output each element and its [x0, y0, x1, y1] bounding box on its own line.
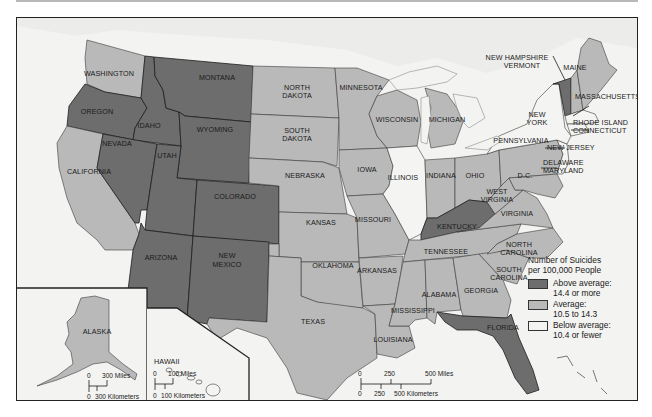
- label-idaho: IDAHO: [137, 121, 161, 130]
- state-wyoming[interactable]: [177, 112, 251, 183]
- svg-text:500 Kilometers: 500 Kilometers: [394, 390, 439, 397]
- label-arizona: ARIZONA: [145, 253, 178, 262]
- state-colorado[interactable]: [193, 180, 279, 244]
- label-minnesota: MINNESOTA: [339, 83, 382, 92]
- label-illinois: ILLINOIS: [388, 173, 418, 182]
- caribbean-islands: [557, 356, 607, 394]
- legend-swatch-below: [528, 321, 548, 331]
- map-canvas: ALASKA HAWAII WASHINGTON OREGON CALIFORN…: [17, 18, 637, 400]
- label-iowa: IOWA: [357, 165, 376, 174]
- label-kentucky: KENTUCKY: [437, 222, 477, 231]
- label-wisconsin: WISCONSIN: [376, 115, 418, 124]
- svg-text:500 Miles: 500 Miles: [425, 370, 454, 377]
- svg-text:0: 0: [87, 393, 91, 400]
- svg-text:0: 0: [358, 370, 362, 377]
- label-vermont: VERMONT: [504, 61, 541, 70]
- label-new-york-2: YORK: [527, 118, 548, 127]
- label-texas: TEXAS: [301, 317, 325, 326]
- label-georgia: GEORGIA: [464, 286, 498, 295]
- label-alabama: ALABAMA: [422, 290, 457, 299]
- svg-text:100 Miles: 100 Miles: [168, 370, 197, 377]
- svg-text:0: 0: [87, 372, 91, 379]
- label-hawaii: HAWAII: [154, 357, 180, 366]
- us-suicide-rate-map: ALASKA HAWAII WASHINGTON OREGON CALIFORN…: [16, 17, 638, 401]
- label-nebraska: NEBRASKA: [285, 171, 325, 180]
- label-indiana: INDIANA: [426, 171, 456, 180]
- label-south-dakota-2: DAKOTA: [282, 134, 312, 143]
- label-missouri: MISSOURI: [355, 215, 391, 224]
- legend-swatch-average: [528, 300, 548, 310]
- label-alaska: ALASKA: [83, 327, 112, 336]
- label-new-mexico-2: MEXICO: [213, 260, 242, 269]
- label-michigan: MICHIGAN: [429, 115, 466, 124]
- svg-text:300 Kilometers: 300 Kilometers: [95, 393, 140, 400]
- svg-text:250: 250: [384, 370, 395, 377]
- label-massachusetts: MASSACHUSETTS: [575, 92, 637, 101]
- svg-text:0: 0: [358, 390, 362, 397]
- state-indiana[interactable]: [425, 158, 455, 218]
- legend: Number of Suicides per 100,000 People Ab…: [528, 255, 638, 341]
- label-colorado: COLORADO: [214, 192, 256, 201]
- legend-item-below-average: Below average: 10.4 or fewer: [528, 320, 638, 340]
- label-florida: FLORIDA: [487, 323, 519, 332]
- label-ohio: OHIO: [466, 171, 485, 180]
- label-maine: MAINE: [563, 63, 586, 72]
- label-south-carolina-2: CAROLINA: [490, 273, 528, 282]
- label-virginia: VIRGINIA: [501, 209, 533, 218]
- label-dc: D.C.: [518, 171, 533, 180]
- label-arkansas: ARKANSAS: [357, 266, 397, 275]
- main-scale-bar: 0 250 500 Miles 0 250 500 Kilometers: [358, 370, 454, 397]
- svg-text:100 Kilometers: 100 Kilometers: [161, 392, 206, 399]
- label-california: CALIFORNIA: [67, 167, 111, 176]
- label-washington: WASHINGTON: [84, 69, 134, 78]
- legend-item-above-average: Above average: 14.4 or more: [528, 278, 638, 298]
- legend-title: Number of Suicides per 100,000 People: [528, 255, 638, 275]
- label-louisiana: LOUISIANA: [373, 335, 412, 344]
- label-mississippi: MISSISSIPPI: [391, 306, 435, 315]
- label-kansas: KANSAS: [306, 218, 336, 227]
- label-nevada: NEVADA: [102, 139, 132, 148]
- legend-item-average: Average: 10.5 to 14.3: [528, 299, 638, 319]
- label-maryland: MARYLAND: [543, 166, 584, 175]
- label-utah: UTAH: [157, 151, 176, 160]
- label-montana: MONTANA: [199, 73, 235, 82]
- svg-text:250: 250: [374, 390, 385, 397]
- label-connecticut: CONNECTICUT: [573, 126, 627, 135]
- svg-text:0: 0: [153, 370, 157, 377]
- label-wyoming: WYOMING: [197, 125, 234, 134]
- lake-superior: [389, 66, 457, 90]
- svg-text:0: 0: [153, 392, 157, 399]
- svg-text:300 Miles: 300 Miles: [102, 372, 131, 379]
- label-new-jersey: NEW JERSEY: [547, 143, 595, 152]
- top-divider: [16, 0, 638, 2]
- label-tennessee: TENNESSEE: [424, 247, 469, 256]
- label-pennsylvania: PENNSYLVANIA: [493, 136, 548, 145]
- label-west-virginia-2: VIRGINIA: [481, 195, 513, 204]
- label-new-mexico-1: NEW: [218, 251, 235, 260]
- label-oregon: OREGON: [81, 107, 114, 116]
- label-north-dakota-2: DAKOTA: [282, 91, 312, 100]
- label-oklahoma: OKLAHOMA: [312, 261, 354, 270]
- state-new-mexico[interactable]: [187, 236, 269, 324]
- legend-swatch-above: [528, 279, 548, 289]
